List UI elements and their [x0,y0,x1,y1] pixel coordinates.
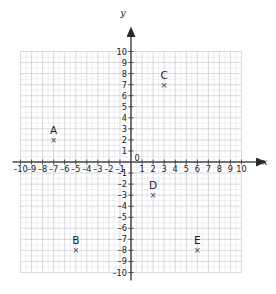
x-tick-label: –3 [93,164,102,174]
y-tick-label: 3 [122,124,127,134]
point-marker-d: × [150,190,157,200]
x-tick-label: 8 [217,164,222,174]
y-tick-label: –4 [118,201,127,211]
point-marker-a: × [50,135,57,145]
coordinate-plane-svg: –10–9–8–7–6–5–4–3–2–1012345678910 –10–9–… [0,0,276,294]
x-tick-label: 7 [206,164,211,174]
x-tick-label: –2 [104,164,113,174]
point-label-d: D [149,179,157,191]
x-tick-label: 1 [139,164,144,174]
x-tick-label: –8 [38,164,47,174]
x-tick-label: 3 [162,164,167,174]
x-tick-label: –10 [13,164,28,174]
y-tick-label: –10 [112,268,127,278]
point-label-b: B [72,234,79,246]
x-tick-label: 6 [195,164,200,174]
y-tick-label: –1 [118,168,127,178]
y-tick-label: 4 [122,113,127,123]
x-tick-label: 0 [135,153,140,163]
point-marker-c: × [161,80,168,90]
y-tick-label: –7 [118,234,127,244]
point-marker-b: × [72,245,79,255]
coordinate-plane-figure: –10–9–8–7–6–5–4–3–2–1012345678910 –10–9–… [0,0,276,294]
point-label-c: C [160,69,167,81]
plotted-point-d: ×D [149,179,157,200]
x-tick-label: –4 [82,164,91,174]
y-tick-label: 10 [117,47,127,57]
point-label-a: A [50,124,58,136]
x-tick-label: –7 [49,164,58,174]
y-tick-label: –8 [118,245,127,255]
point-marker-e: × [194,245,201,255]
plotted-point-b: ×B [72,234,79,255]
x-tick-label: –5 [71,164,80,174]
x-axis-label: x [262,156,268,167]
y-tick-label: 2 [122,135,127,145]
y-tick-label: 5 [122,102,127,112]
x-tick-label: 2 [150,164,155,174]
y-tick-label: 9 [122,58,127,68]
y-tick-label: 1 [122,146,127,156]
plotted-point-e: ×E [194,234,201,255]
point-label-e: E [194,234,201,246]
y-tick-label: –6 [118,223,127,233]
y-tick-label: –2 [118,179,127,189]
x-tick-label: 5 [184,164,189,174]
y-tick-label: 7 [122,80,127,90]
plotted-point-a: ×A [50,124,58,145]
y-axis-label: y [119,7,126,18]
y-tick-label: –9 [118,256,127,266]
plotted-point-c: ×C [160,69,167,90]
x-tick-label: –6 [60,164,69,174]
y-tick-label: –3 [118,190,127,200]
x-tick-label: –9 [27,164,36,174]
x-tick-label: 4 [173,164,178,174]
y-tick-label: –5 [118,212,127,222]
x-tick-label: 9 [228,164,233,174]
y-tick-label: 8 [122,69,127,79]
y-tick-label: 6 [122,91,127,101]
x-tick-label: 10 [236,164,246,174]
